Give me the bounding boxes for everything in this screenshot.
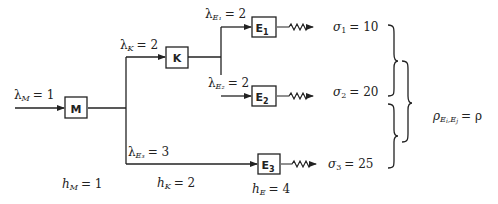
node-E1-label: E xyxy=(255,22,263,35)
correlation-label: ρEi,Ej= ρ xyxy=(432,109,482,125)
lambda-E3-label: λE₃= 3 xyxy=(128,145,169,160)
h-M-label: hM= 1 xyxy=(62,177,102,192)
h-E-label: hE= 4 xyxy=(252,182,290,197)
h-K-label: hK= 2 xyxy=(157,176,195,191)
brace-E1-E3 xyxy=(402,61,412,142)
node-E1-sub: 1 xyxy=(263,28,269,37)
demand-squiggle-E3 xyxy=(281,161,316,167)
sigma-2-label: σ2= 20 xyxy=(333,85,378,100)
demand-squiggle-E1 xyxy=(277,24,313,30)
supply-chain-diagram: M K E1 E2 E3 λM= 1 λK= 2 λE₁= 2 λE₂= 2 λ… xyxy=(0,0,498,204)
lambda-K-label: λK= 2 xyxy=(120,38,158,53)
brace-E1-E2 xyxy=(388,25,398,96)
lambda-M-label: λM= 1 xyxy=(14,88,54,103)
demand-squiggle-E2 xyxy=(277,93,313,99)
node-E2-label: E xyxy=(255,91,263,104)
sigma-3-label: σ3= 25 xyxy=(328,157,373,172)
lambda-E1-label: λE₁= 2 xyxy=(205,7,246,22)
node-E2-sub: 2 xyxy=(263,97,269,106)
node-K-label: K xyxy=(173,52,182,65)
node-E3-sub: 3 xyxy=(269,165,275,174)
lambda-E2-label: λE₂= 2 xyxy=(208,76,249,91)
sigma-1-label: σ1= 10 xyxy=(333,20,378,35)
node-M-label: M xyxy=(71,103,82,116)
brace-E2-E3 xyxy=(388,104,398,168)
node-E3-label: E xyxy=(261,159,269,172)
